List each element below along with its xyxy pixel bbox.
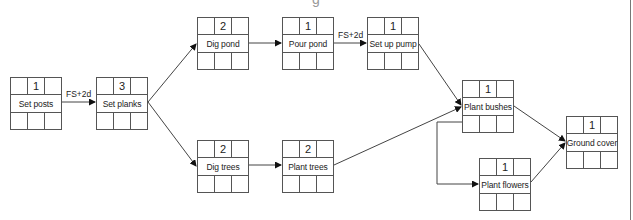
node-plant-bushes: 1 Plant bushes: [462, 80, 514, 133]
node-dig-pond: 2 Dig pond: [197, 17, 249, 70]
duration: 1: [497, 159, 514, 175]
duration: 2: [215, 141, 232, 157]
task-name: Ground cover: [567, 138, 617, 148]
node-ground-cover: 1 Ground cover: [566, 116, 618, 169]
duration: 1: [300, 18, 317, 34]
node-dig-trees: 2 Dig trees: [197, 140, 249, 193]
task-name: Dig pond: [206, 39, 239, 49]
duration: 1: [28, 78, 45, 94]
task-name: Plant bushes: [464, 102, 512, 112]
edge-planks-digpond: [148, 44, 196, 102]
duration: 2: [215, 18, 232, 34]
node-set-up-pump: 1 Set up pump: [367, 17, 419, 70]
network-diagram: g FS+2d FS+2d 1 Set posts 3 Se: [0, 0, 633, 220]
node-plant-flowers: 1 Plant flowers: [479, 158, 531, 211]
task-name: Set up pump: [369, 39, 416, 49]
node-plant-trees: 2 Plant trees: [282, 140, 334, 193]
edge-pump-bushes: [419, 44, 461, 105]
edge-bushes-groundcover: [514, 106, 565, 141]
edge-planks-digtrees: [148, 102, 196, 166]
task-name: Plant flowers: [481, 180, 528, 190]
task-name: Pour pond: [289, 39, 327, 49]
task-name: Set planks: [103, 99, 142, 109]
edge-flowers-groundcover: [531, 143, 565, 182]
duration: 1: [584, 117, 601, 133]
lag-label-pour-pump: FS+2d: [338, 30, 363, 40]
duration: 3: [114, 78, 131, 94]
duration: 2: [300, 141, 317, 157]
node-set-posts: 1 Set posts: [10, 77, 62, 130]
duration: 1: [480, 81, 497, 97]
edge-planttrees-bushes: [334, 107, 461, 165]
node-pour-pond: 1 Pour pond: [282, 17, 334, 70]
task-name: Dig trees: [206, 162, 239, 172]
duration: 1: [385, 18, 402, 34]
task-name: Set posts: [19, 99, 54, 109]
task-name: Plant trees: [288, 162, 328, 172]
node-set-planks: 3 Set planks: [96, 77, 148, 130]
lag-label-posts-planks: FS+2d: [66, 89, 91, 99]
